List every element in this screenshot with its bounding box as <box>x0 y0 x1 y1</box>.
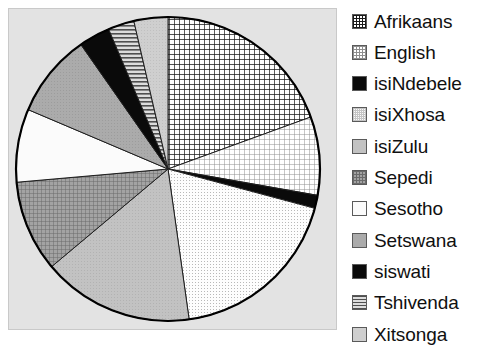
legend-label: isiXhosa <box>374 105 445 124</box>
legend-item-xitsonga[interactable]: Xitsonga <box>352 319 447 349</box>
legend-label: siswati <box>374 262 430 281</box>
legend-label: isiZulu <box>374 137 428 156</box>
legend-swatch-icon <box>352 76 367 91</box>
legend-item-siswati[interactable]: siswati <box>352 256 430 286</box>
legend-item-isizulu[interactable]: isiZulu <box>352 131 428 161</box>
pie-svg <box>9 9 336 329</box>
legend-swatch-icon <box>352 327 367 342</box>
legend-swatch-icon <box>352 264 367 279</box>
legend-swatch-icon <box>352 233 367 248</box>
legend-item-isindebele[interactable]: isiNdebele <box>352 69 462 99</box>
legend-item-sepedi[interactable]: Sepedi <box>352 163 433 193</box>
legend-item-setswana[interactable]: Setswana <box>352 225 457 255</box>
legend-item-afrikaans[interactable]: Afrikaans <box>352 6 452 36</box>
legend-label: isiNdebele <box>374 74 462 93</box>
legend-swatch-icon <box>352 107 367 122</box>
legend-swatch-icon <box>352 170 367 185</box>
legend-label: Xitsonga <box>374 325 447 344</box>
legend-swatch-icon <box>352 295 367 310</box>
pie-chart-figure: AfrikaansEnglishisiNdebeleisiXhosaisiZul… <box>0 0 492 352</box>
legend-label: Setswana <box>374 231 457 250</box>
plot-area <box>8 8 337 330</box>
legend-swatch-icon <box>352 45 367 60</box>
legend-item-english[interactable]: English <box>352 37 436 67</box>
legend-swatch-icon <box>352 201 367 216</box>
legend-swatch-icon <box>352 139 367 154</box>
legend-item-tshivenda[interactable]: Tshivenda <box>352 288 459 318</box>
legend-label: Sesotho <box>374 199 443 218</box>
legend-item-isixhosa[interactable]: isiXhosa <box>352 100 445 130</box>
legend-label: English <box>374 43 436 62</box>
legend: AfrikaansEnglishisiNdebeleisiXhosaisiZul… <box>352 2 492 350</box>
legend-label: Tshivenda <box>374 293 459 312</box>
legend-item-sesotho[interactable]: Sesotho <box>352 194 443 224</box>
legend-label: Afrikaans <box>374 12 452 31</box>
pie-slice-group <box>16 17 320 321</box>
legend-label: Sepedi <box>374 168 433 187</box>
legend-swatch-icon <box>352 14 367 29</box>
